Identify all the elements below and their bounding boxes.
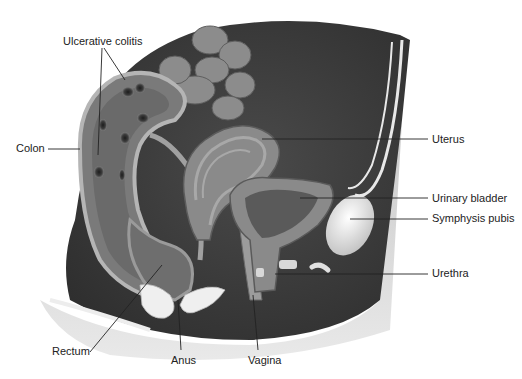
- pelvis-illustration: [0, 0, 522, 379]
- label-vagina: Vagina: [248, 354, 281, 367]
- label-anus: Anus: [171, 354, 196, 367]
- anatomy-figure: Ulcerative colitis Colon Uterus Urinary …: [0, 0, 522, 379]
- label-urethra: Urethra: [432, 267, 469, 280]
- label-rectum: Rectum: [52, 345, 90, 358]
- label-uterus: Uterus: [432, 133, 464, 146]
- urethra-fragment: [256, 268, 264, 277]
- label-symphysis-pubis: Symphysis pubis: [432, 212, 515, 225]
- label-urinary-bladder: Urinary bladder: [432, 192, 507, 205]
- leader-ulcerative-colitis-2: [104, 48, 125, 80]
- label-colon: Colon: [16, 142, 45, 155]
- urethra-fragment: [279, 260, 297, 269]
- label-ulcerative-colitis: Ulcerative colitis: [63, 35, 142, 48]
